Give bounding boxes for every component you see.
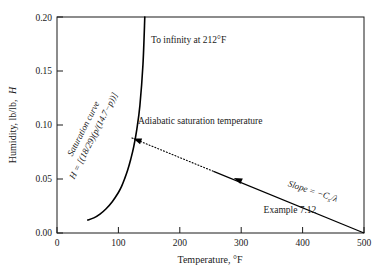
x-tick-label-0: 0 <box>55 238 60 248</box>
x-tick-labels: 0 100 200 300 400 500 <box>55 238 372 248</box>
y-tick-label-0.15: 0.15 <box>35 66 52 76</box>
chart-canvas: 0.00 0.05 0.10 0.15 0.20 0 100 200 300 4… <box>0 0 379 275</box>
x-axis-title: Temperature, °F <box>178 254 243 265</box>
x-tick-label-500: 500 <box>357 238 372 248</box>
y-axis-title-group: Humidity, lb/lb, H <box>7 86 18 163</box>
x-tick-label-100: 100 <box>111 238 126 248</box>
humidity-temperature-chart: 0.00 0.05 0.10 0.15 0.20 0 100 200 300 4… <box>0 0 379 275</box>
x-tick-label-400: 400 <box>295 238 310 248</box>
y-tick-label-0.00: 0.00 <box>35 228 52 238</box>
annotation-to-infinity: To infinity at 212°F <box>151 35 226 45</box>
y-tick-labels: 0.00 0.05 0.10 0.15 0.20 <box>35 13 52 238</box>
y-tick-label-0.10: 0.10 <box>35 120 52 130</box>
y-axis-title-symbol: H <box>7 86 18 95</box>
annotation-adiabatic-saturation-temperature: Adiabatic saturation temperature <box>138 116 263 126</box>
y-axis-title-main: Humidity, lb/lb, <box>7 100 18 164</box>
y-axis-title: Humidity, lb/lb, H <box>7 86 18 163</box>
y-tick-label-0.20: 0.20 <box>35 13 52 23</box>
annotation-example: Example 7.12 <box>264 205 317 215</box>
y-tick-label-0.05: 0.05 <box>35 174 52 184</box>
x-tick-label-300: 300 <box>234 238 249 248</box>
x-tick-label-200: 200 <box>173 238 188 248</box>
